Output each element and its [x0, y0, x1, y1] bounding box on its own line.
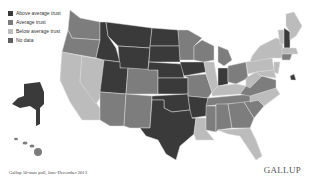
- state-florida: [218, 128, 262, 160]
- legend-swatch-no-data: [8, 38, 13, 43]
- legend-label: Above average trust: [16, 10, 61, 16]
- state-mississippi: [206, 106, 216, 132]
- state-ohio: [228, 62, 248, 84]
- legend-swatch-below: [8, 29, 13, 34]
- legend-swatch-above: [8, 11, 13, 16]
- state-arkansas: [188, 96, 208, 118]
- state-connecticut: [282, 54, 292, 60]
- state-rhode-island: [290, 74, 296, 80]
- state-arizona: [100, 92, 126, 126]
- legend-item-above-average: Above average trust: [8, 9, 61, 17]
- map-legend: Above average trust Average trust Below …: [8, 9, 61, 45]
- state-washington: [68, 10, 100, 40]
- legend-label: Average trust: [16, 19, 46, 25]
- legend-swatch-average: [8, 20, 13, 25]
- state-indiana: [218, 68, 228, 86]
- state-massachusetts: [282, 48, 298, 54]
- state-new-jersey: [274, 62, 280, 74]
- gallup-logo: GALLUP: [264, 165, 301, 175]
- legend-label: No data: [16, 37, 34, 43]
- state-michigan: [218, 46, 232, 66]
- legend-label: Below average trust: [16, 28, 60, 34]
- state-hawaii: [14, 138, 42, 156]
- state-kansas: [158, 78, 188, 94]
- source-note: Gallup 50-state poll, June-December 2013: [9, 170, 87, 175]
- state-alaska: [12, 82, 44, 126]
- legend-item-average: Average trust: [8, 18, 61, 26]
- state-new-york: [250, 38, 284, 62]
- state-north-dakota: [150, 28, 180, 46]
- state-south-dakota: [149, 46, 180, 62]
- state-colorado: [126, 68, 158, 94]
- legend-item-below-average: Below average trust: [8, 27, 61, 35]
- legend-item-no-data: No data: [8, 36, 61, 44]
- state-wyoming: [118, 46, 150, 70]
- state-new-mexico: [124, 94, 152, 128]
- state-iowa: [180, 62, 206, 76]
